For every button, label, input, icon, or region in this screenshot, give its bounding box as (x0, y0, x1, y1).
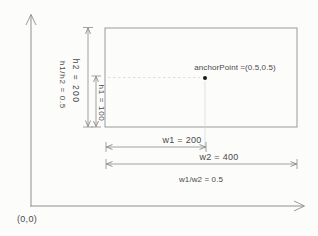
origin-label: (0,0) (17, 214, 37, 224)
coordinate-axes (26, 15, 305, 212)
anchor-point-diagram: (0,0) anchorPoint =(0.5,0.5) h2 = 200 (0, 0, 318, 236)
anchor-point-dot (203, 76, 207, 80)
diagram-svg: (0,0) anchorPoint =(0.5,0.5) h2 = 200 (0, 0, 318, 236)
h1-dimension-label: h1 = 100 (97, 85, 106, 122)
h2-dimension-label: h2 = 200 (71, 59, 81, 104)
w1-dimension-label: w1 = 200 (161, 135, 201, 145)
dimension-h2: h2 = 200 (71, 28, 93, 128)
h-ratio-label: h1/h2 = 0.5 (58, 61, 67, 109)
anchor-point-label: anchorPoint =(0.5,0.5) (194, 63, 276, 72)
w2-dimension-label: w2 = 400 (198, 152, 238, 162)
dimension-w1: w1 = 200 (106, 135, 206, 152)
dimension-h1: h1 = 100 (92, 76, 106, 127)
dimension-w2: w2 = 400 (106, 152, 297, 169)
w-ratio-label: w1/w2 = 0.5 (178, 175, 223, 184)
